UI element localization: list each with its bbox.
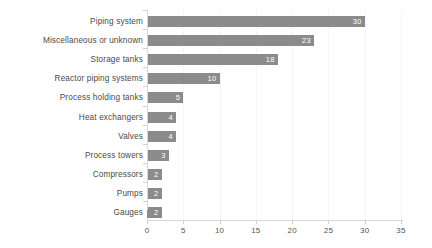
category-label: Storage tanks bbox=[3, 50, 143, 69]
category-label: Pumps bbox=[3, 184, 143, 203]
category-label: Compressors bbox=[3, 165, 143, 184]
bar-chart: Piping systemMiscellaneous or unknownSto… bbox=[0, 0, 432, 248]
y-tick bbox=[143, 48, 147, 49]
category-label: Process holding tanks bbox=[3, 88, 143, 107]
y-tick bbox=[143, 125, 147, 126]
y-tick bbox=[143, 163, 147, 164]
x-axis-tick-labels: 05101520253035 bbox=[147, 226, 403, 240]
x-tick-25 bbox=[328, 220, 329, 224]
x-tick-0 bbox=[147, 220, 148, 224]
category-label-slot: Heat exchangers bbox=[0, 108, 143, 127]
y-tick bbox=[143, 10, 147, 11]
bar-rows: 302318105443222 bbox=[147, 10, 401, 221]
y-tick bbox=[143, 201, 147, 202]
y-tick bbox=[143, 182, 147, 183]
bar-row[interactable]: 4 bbox=[147, 127, 401, 146]
bar-row[interactable]: 5 bbox=[147, 88, 401, 107]
category-label-slot: Process towers bbox=[0, 146, 143, 165]
x-tick-label-5: 5 bbox=[181, 226, 186, 235]
category-label-slot: Compressors bbox=[0, 165, 143, 184]
category-label: Process towers bbox=[3, 146, 143, 165]
category-label: Heat exchangers bbox=[3, 108, 143, 127]
plot-area: 302318105443222 bbox=[147, 10, 401, 221]
y-tick bbox=[143, 67, 147, 68]
bar-value-label: 2 bbox=[154, 188, 158, 199]
bar-row[interactable]: 4 bbox=[147, 108, 401, 127]
bar[interactable]: 23 bbox=[147, 35, 314, 46]
bar[interactable]: 10 bbox=[147, 73, 220, 84]
category-axis-labels: Piping systemMiscellaneous or unknownSto… bbox=[0, 10, 143, 221]
x-tick-5 bbox=[183, 220, 184, 224]
category-label: Valves bbox=[3, 127, 143, 146]
bar-row[interactable]: 23 bbox=[147, 31, 401, 50]
bar-row[interactable]: 3 bbox=[147, 146, 401, 165]
bar-value-label: 3 bbox=[161, 150, 165, 161]
bar-value-label: 23 bbox=[302, 35, 311, 46]
category-label: Piping system bbox=[3, 12, 143, 31]
x-tick-label-20: 20 bbox=[287, 226, 296, 235]
category-label-slot: Storage tanks bbox=[0, 50, 143, 69]
bar[interactable]: 2 bbox=[147, 188, 162, 199]
bar-value-label: 30 bbox=[353, 16, 362, 27]
category-label-slot: Valves bbox=[0, 127, 143, 146]
bar-row[interactable]: 10 bbox=[147, 69, 401, 88]
y-axis-line bbox=[147, 10, 148, 210]
bar[interactable]: 18 bbox=[147, 54, 278, 65]
category-label-slot: Reactor piping systems bbox=[0, 69, 143, 88]
bar-value-label: 4 bbox=[169, 131, 173, 142]
bar[interactable]: 30 bbox=[147, 16, 365, 27]
bar-row[interactable]: 30 bbox=[147, 12, 401, 31]
x-tick-10 bbox=[220, 220, 221, 224]
bar[interactable]: 4 bbox=[147, 112, 176, 123]
bar-value-label: 4 bbox=[169, 112, 173, 123]
y-tick bbox=[143, 86, 147, 87]
category-label-slot: Miscellaneous or unknown bbox=[0, 31, 143, 50]
category-label-slot: Process holding tanks bbox=[0, 88, 143, 107]
category-label: Reactor piping systems bbox=[3, 69, 143, 88]
x-tick-label-30: 30 bbox=[360, 226, 369, 235]
bar-row[interactable]: 18 bbox=[147, 50, 401, 69]
y-tick bbox=[143, 144, 147, 145]
category-label: Gauges bbox=[3, 203, 143, 222]
x-tick-label-25: 25 bbox=[324, 226, 333, 235]
bar[interactable]: 2 bbox=[147, 207, 162, 218]
bar-value-label: 18 bbox=[266, 54, 275, 65]
category-label-slot: Piping system bbox=[0, 12, 143, 31]
x-tick-label-15: 15 bbox=[251, 226, 260, 235]
x-axis-line bbox=[147, 220, 403, 221]
bar[interactable]: 5 bbox=[147, 92, 183, 103]
bar-value-label: 5 bbox=[176, 92, 180, 103]
x-tick-label-35: 35 bbox=[396, 226, 405, 235]
bar-row[interactable]: 2 bbox=[147, 165, 401, 184]
x-tick-label-10: 10 bbox=[215, 226, 224, 235]
bar[interactable]: 2 bbox=[147, 169, 162, 180]
x-tick-20 bbox=[292, 220, 293, 224]
bar-row[interactable]: 2 bbox=[147, 184, 401, 203]
bar-value-label: 2 bbox=[154, 207, 158, 218]
category-label-slot: Pumps bbox=[0, 184, 143, 203]
y-tick bbox=[143, 29, 147, 30]
bar[interactable]: 3 bbox=[147, 150, 169, 161]
category-label-slot: Gauges bbox=[0, 203, 143, 222]
bar[interactable]: 4 bbox=[147, 131, 176, 142]
x-tick-35 bbox=[401, 220, 402, 224]
x-tick-label-0: 0 bbox=[145, 226, 150, 235]
bar-value-label: 2 bbox=[154, 169, 158, 180]
x-tick-30 bbox=[365, 220, 366, 224]
y-tick bbox=[143, 106, 147, 107]
category-label: Miscellaneous or unknown bbox=[3, 31, 143, 50]
bar-value-label: 10 bbox=[208, 73, 217, 84]
gridline-35 bbox=[401, 10, 403, 221]
x-tick-15 bbox=[256, 220, 257, 224]
